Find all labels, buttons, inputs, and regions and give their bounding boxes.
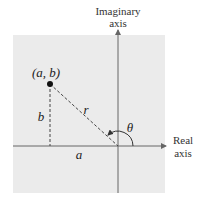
x-axis-label-line1: Real <box>173 134 193 146</box>
horizontal-label-a: a <box>76 147 83 162</box>
x-axis-label-line2: axis <box>174 147 192 159</box>
point-a-b <box>47 81 53 87</box>
point-label: (a, b) <box>32 65 60 80</box>
complex-plane-diagram: Imaginary axis Real axis (a, b) b a r θ <box>0 0 201 206</box>
y-axis-label-line1: Imaginary <box>95 5 141 17</box>
plane-background <box>13 35 165 193</box>
y-axis-label-line2: axis <box>109 17 127 29</box>
angle-label-theta: θ <box>127 120 134 135</box>
vertical-label-b: b <box>38 109 45 124</box>
